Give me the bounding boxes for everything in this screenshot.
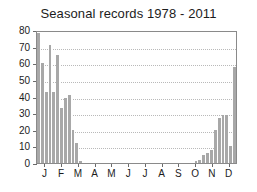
chart-figure: Seasonal records 1978 - 2011 01020304050… [0, 0, 257, 192]
y-tick-label: 10 [19, 142, 30, 152]
x-tick-label: M [107, 168, 115, 180]
bar [233, 67, 236, 163]
y-tick-label: 80 [19, 26, 30, 36]
x-tick-label: N [208, 168, 215, 180]
x-tick-mark [95, 164, 96, 167]
x-tick-label: A [158, 168, 165, 180]
x-tick-label: F [58, 168, 64, 180]
x-tick-label: S [175, 168, 182, 180]
y-tick-label: 70 [19, 43, 30, 53]
y-tick-label: 60 [19, 59, 30, 69]
bar-series [37, 32, 236, 163]
x-tick-mark [61, 164, 62, 167]
x-tick-mark [128, 164, 129, 167]
x-tick-label: O [191, 168, 199, 180]
x-tick-mark [178, 164, 179, 167]
x-tick-label: J [42, 168, 47, 180]
bar [79, 161, 83, 163]
x-tick-mark [212, 164, 213, 167]
x-tick-label: M [74, 168, 82, 180]
x-tick-label: D [225, 168, 232, 180]
bar [75, 143, 79, 163]
chart-title: Seasonal records 1978 - 2011 [0, 6, 257, 21]
x-tick-label: J [126, 168, 131, 180]
y-tick-label: 40 [19, 93, 30, 103]
x-tick-mark [111, 164, 112, 167]
x-axis-labels: JFMAMJJASOND [36, 168, 237, 182]
x-tick-label: J [142, 168, 147, 180]
y-tick-label: 50 [19, 76, 30, 86]
x-tick-mark [229, 164, 230, 167]
y-tick-label: 30 [19, 109, 30, 119]
x-tick-mark [195, 164, 196, 167]
x-tick-mark [162, 164, 163, 167]
x-tick-label: A [91, 168, 98, 180]
x-tick-mark [44, 164, 45, 167]
y-axis-labels: 01020304050607080 [0, 31, 33, 164]
x-tick-mark [78, 164, 79, 167]
x-tick-mark [145, 164, 146, 167]
y-tick-label: 0 [24, 159, 30, 169]
y-tick-label: 20 [19, 126, 30, 136]
plot-area [36, 31, 237, 164]
